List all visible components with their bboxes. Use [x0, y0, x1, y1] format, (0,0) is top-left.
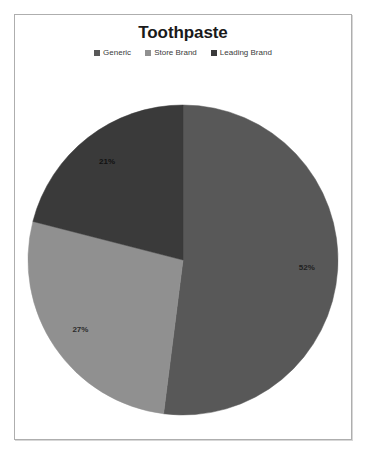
- legend-label-generic: Generic: [103, 48, 131, 57]
- pie-slice-group: [28, 105, 338, 415]
- legend-item-store-brand[interactable]: Store Brand: [145, 48, 197, 57]
- pie-data-label-leading-brand: 21%: [99, 157, 115, 166]
- square-marker-icon: [94, 50, 100, 56]
- chart-frame: Toothpaste Generic Store Brand Leading B…: [14, 14, 352, 440]
- pie-data-label-generic: 52%: [299, 263, 315, 272]
- legend-item-generic[interactable]: Generic: [94, 48, 131, 57]
- pie-plot-area: 52%27%21%: [15, 81, 351, 439]
- square-marker-icon: [145, 50, 151, 56]
- chart-title: Toothpaste: [15, 23, 351, 43]
- legend-item-leading-brand[interactable]: Leading Brand: [211, 48, 272, 57]
- chart-legend: Generic Store Brand Leading Brand: [15, 48, 351, 57]
- pie-data-label-store-brand: 27%: [72, 325, 88, 334]
- pie-chart: 52%27%21%: [23, 100, 343, 420]
- square-marker-icon: [211, 50, 217, 56]
- legend-label-leading-brand: Leading Brand: [220, 48, 272, 57]
- pie-slice-generic[interactable]: [164, 105, 338, 415]
- legend-label-store-brand: Store Brand: [154, 48, 197, 57]
